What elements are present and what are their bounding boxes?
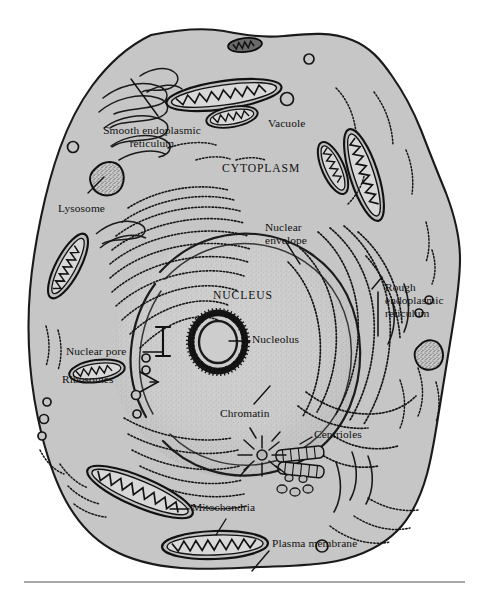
label-nucleus-text: NUCLEUS xyxy=(213,289,273,302)
label-ribosomes: Ribosomes xyxy=(62,374,114,386)
label-vacuole: Vacuole xyxy=(268,118,305,130)
cell-diagram-figure: Smooth endoplasmic reticulum Vacuole CYT… xyxy=(0,0,488,598)
label-lysosome: Lysosome xyxy=(58,203,105,215)
label-rough-er-line3: reticulum xyxy=(385,307,487,320)
label-cytoplasm: CYTOPLASM xyxy=(222,163,300,175)
label-nuclear-pore: Nuclear pore xyxy=(66,346,126,358)
label-vacuole-text: Vacuole xyxy=(268,117,305,129)
label-rough-er-line1: Rough xyxy=(385,281,487,294)
label-nuclear-envelope-line1: Nuclear xyxy=(265,221,365,234)
label-rough-er: Rough endoplasmic reticulum xyxy=(385,281,487,319)
label-chromatin: Chromatin xyxy=(220,408,270,420)
label-nuclear-pore-text: Nuclear pore xyxy=(66,345,126,357)
label-nucleus: NUCLEUS xyxy=(213,290,273,302)
label-cytoplasm-text: CYTOPLASM xyxy=(222,162,300,175)
lysosome-right xyxy=(415,340,443,369)
label-plasma-membrane: Plasma membrane xyxy=(272,538,357,550)
label-mitochondria: Mitochondria xyxy=(192,502,255,514)
label-plasma-membrane-text: Plasma membrane xyxy=(272,537,357,549)
label-centrioles: Centrioles xyxy=(314,429,362,441)
vacuole-labeled xyxy=(281,93,294,106)
label-ribosomes-text: Ribosomes xyxy=(62,373,114,385)
label-nucleolus-text: Nucleolus xyxy=(252,333,299,345)
label-nuclear-envelope-line2: envelope xyxy=(265,234,365,247)
label-smooth-er-line1: Smooth endoplasmic xyxy=(82,124,222,137)
label-centrioles-text: Centrioles xyxy=(314,428,362,440)
label-nuclear-envelope: Nuclear envelope xyxy=(265,221,365,247)
label-mitochondria-text: Mitochondria xyxy=(192,501,255,513)
label-smooth-er: Smooth endoplasmic reticulum xyxy=(82,124,222,150)
label-lysosome-text: Lysosome xyxy=(58,202,105,214)
label-chromatin-text: Chromatin xyxy=(220,407,270,419)
label-rough-er-line2: endoplasmic xyxy=(385,294,487,307)
label-nucleolus: Nucleolus xyxy=(252,334,299,346)
label-smooth-er-line2: reticulum xyxy=(82,137,222,150)
